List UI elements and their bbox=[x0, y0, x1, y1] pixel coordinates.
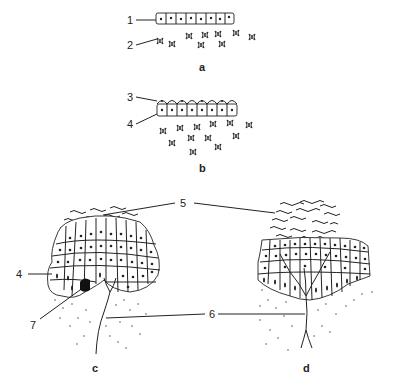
cell-mass-d bbox=[258, 237, 370, 300]
mesenchymal-cells-b bbox=[160, 120, 252, 155]
callout-2: 2 bbox=[127, 39, 133, 51]
callout-3: 3 bbox=[127, 91, 133, 103]
diagram-canvas: 1 2 a bbox=[0, 0, 395, 382]
panel-label-c: c bbox=[92, 362, 98, 374]
panel-c: 5 4 7 6 c bbox=[16, 197, 215, 374]
panel-b: 3 4 b bbox=[127, 91, 252, 174]
basal-row-b bbox=[157, 104, 237, 116]
callout-1: 1 bbox=[127, 14, 133, 26]
callout-7: 7 bbox=[30, 319, 36, 331]
panel-label-a: a bbox=[199, 61, 206, 73]
panel-d: d bbox=[194, 201, 373, 375]
cell-mass-c bbox=[48, 216, 161, 298]
callout-4-b: 4 bbox=[127, 118, 133, 130]
leader-line-3 bbox=[136, 97, 157, 101]
epithelial-row-a bbox=[156, 13, 234, 24]
panel-label-b: b bbox=[199, 162, 206, 174]
nerve-fiber-c bbox=[96, 278, 116, 354]
callout-4-c: 4 bbox=[16, 268, 22, 280]
surface-flakes-d bbox=[270, 201, 340, 240]
leader-line-4-b bbox=[136, 114, 157, 124]
covering-layer-b bbox=[157, 100, 237, 104]
leader-line-5-c bbox=[103, 203, 175, 215]
leader-line-2 bbox=[136, 39, 157, 45]
dark-cell bbox=[80, 278, 90, 291]
callout-6: 6 bbox=[209, 308, 215, 320]
leader-line-5-d bbox=[194, 203, 275, 213]
leader-line-6-c bbox=[106, 314, 205, 318]
mesenchymal-cells-a bbox=[157, 30, 255, 48]
panel-a: 1 2 a bbox=[127, 13, 255, 73]
callout-5: 5 bbox=[180, 197, 186, 209]
panel-label-d: d bbox=[303, 362, 310, 374]
